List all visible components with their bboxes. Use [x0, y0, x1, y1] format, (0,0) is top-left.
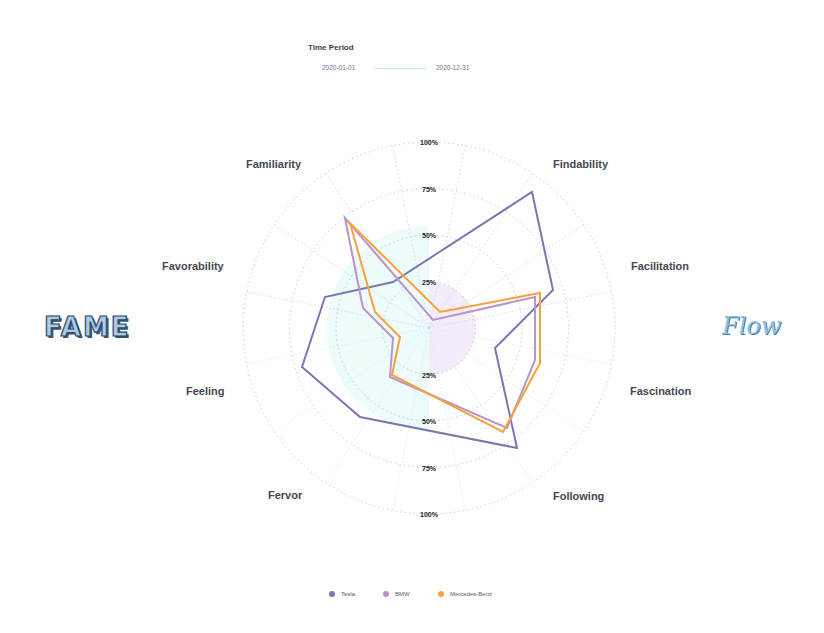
tesla-dot-icon [329, 591, 335, 597]
axis-label-familiarity: Familiarity [246, 158, 301, 170]
axis-label-fascination: Fascination [630, 385, 691, 397]
svg-text:100%: 100% [420, 139, 439, 146]
axis-label-facilitation: Facilitation [631, 260, 689, 272]
svg-text:50%: 50% [422, 418, 437, 425]
axis-label-favorability: Favorability [162, 260, 224, 272]
axis-label-fervor: Fervor [268, 489, 302, 501]
legend-item-bmw[interactable]: BMW [377, 588, 416, 600]
legend-label: BMW [395, 591, 410, 597]
flow-logo: Flow [722, 312, 781, 340]
legend-item-tesla[interactable]: Tesla [323, 588, 361, 600]
svg-text:75%: 75% [422, 465, 437, 472]
legend-label: Tesla [341, 591, 355, 597]
svg-text:25%: 25% [422, 279, 437, 286]
legend-item-mercedes-benz[interactable]: Mercedes-Benz [432, 588, 498, 600]
mercedes-dot-icon [438, 591, 444, 597]
bmw-dot-icon [383, 591, 389, 597]
svg-text:100%: 100% [420, 511, 439, 518]
svg-text:25%: 25% [422, 372, 437, 379]
axis-label-following: Following [553, 490, 604, 502]
svg-text:75%: 75% [422, 186, 437, 193]
axis-label-feeling: Feeling [186, 385, 225, 397]
svg-text:50%: 50% [422, 232, 437, 239]
fame-logo: FAME [44, 312, 131, 342]
legend-label: Mercedes-Benz [450, 591, 492, 597]
axis-label-findability: Findability [553, 158, 608, 170]
